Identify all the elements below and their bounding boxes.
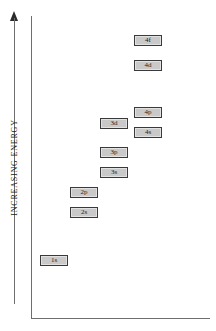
orbital-box-2p: 2p [70, 187, 98, 198]
orbital-box-3p: 3p [100, 147, 128, 158]
orbital-box-2s: 2s [70, 207, 98, 218]
energy-level-diagram: INCREASING ENERGY 4f 4d 4p 3d 4s 3p 3s 2… [0, 0, 216, 331]
orbital-box-4p: 4p [134, 107, 162, 118]
orbital-label: 4f [145, 37, 151, 44]
orbital-label: 2s [81, 209, 87, 216]
x-axis-line [31, 318, 210, 319]
orbital-box-4d: 4d [134, 60, 162, 71]
orbital-label: 2p [81, 189, 88, 196]
orbital-label: 4p [145, 109, 152, 116]
orbital-box-1s: 1s [40, 255, 68, 266]
orbital-label: 3s [111, 169, 117, 176]
orbital-label: 1s [51, 257, 57, 264]
orbital-label: 4d [145, 62, 152, 69]
orbital-box-3d: 3d [100, 118, 128, 129]
orbital-label: 4s [145, 129, 151, 136]
orbital-label: 3p [111, 149, 118, 156]
orbital-box-3s: 3s [100, 167, 128, 178]
orbital-box-4s: 4s [134, 127, 162, 138]
orbital-label: 3d [111, 120, 118, 127]
orbital-box-4f: 4f [134, 35, 162, 46]
energy-axis-label: INCREASING ENERGY [10, 98, 19, 238]
y-axis-line [31, 16, 32, 319]
